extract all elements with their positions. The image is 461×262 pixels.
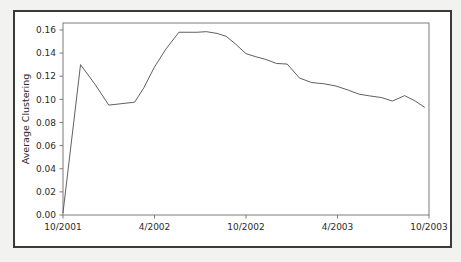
x-tick-label-3: 4/2003 (322, 222, 354, 232)
chart-page: 10/20014/200210/20024/200310/2003 0.000.… (0, 0, 461, 262)
y-axis-title: Average Clustering (20, 74, 31, 164)
y-tick-labels: 0.000.020.040.060.080.100.120.140.16 (36, 25, 56, 220)
y-tick-label-1: 0.02 (36, 187, 56, 197)
data-series-group (63, 32, 424, 213)
y-tick-label-7: 0.14 (36, 48, 56, 58)
y-tick-label-5: 0.10 (36, 95, 56, 105)
average-clustering-line-chart: 10/20014/200210/20024/200310/2003 0.000.… (15, 12, 450, 246)
data-line-0 (63, 32, 424, 213)
x-tick-label-1: 4/2002 (139, 222, 171, 232)
axis-titles: Average Clustering (20, 74, 31, 164)
x-tick-labels: 10/20014/200210/20024/200310/2003 (44, 222, 447, 232)
y-tick-label-0: 0.00 (36, 210, 56, 220)
tick-marks-group (60, 30, 430, 219)
y-tick-label-4: 0.08 (36, 118, 56, 128)
y-tick-label-2: 0.04 (36, 164, 56, 174)
axes-group (63, 23, 429, 215)
x-tick-label-4: 10/2003 (410, 222, 447, 232)
x-tick-label-2: 10/2002 (227, 222, 264, 232)
plot-border (63, 23, 429, 215)
figure-frame: 10/20014/200210/20024/200310/2003 0.000.… (13, 10, 452, 248)
x-tick-label-0: 10/2001 (44, 222, 81, 232)
y-tick-label-6: 0.12 (36, 71, 56, 81)
figure-inner: 10/20014/200210/20024/200310/2003 0.000.… (15, 12, 450, 246)
y-tick-label-3: 0.06 (36, 141, 56, 151)
y-tick-label-8: 0.16 (36, 25, 56, 35)
